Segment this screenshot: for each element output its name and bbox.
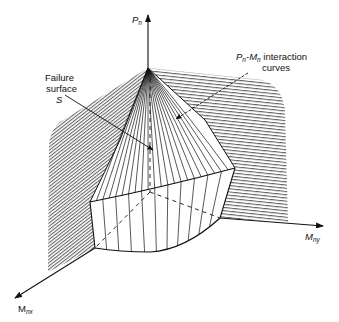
mnx-axis-label: Mnx (18, 303, 34, 315)
interaction-curves-label-line2: curves (262, 62, 290, 73)
mny-axis-label: Mny (305, 231, 321, 244)
pn-axis-label: Pn (132, 14, 142, 26)
failure-surface-label-line1: Failure (45, 72, 74, 83)
failure-surface-label-line3: S (56, 94, 63, 105)
failure-surface-diagram: Pn Mnx Mny Failure surface S Pn-Mn inter… (0, 0, 339, 322)
diagram-canvas: Pn Mnx Mny Failure surface S Pn-Mn inter… (0, 0, 339, 322)
failure-surface-label-line2: surface (46, 83, 77, 94)
